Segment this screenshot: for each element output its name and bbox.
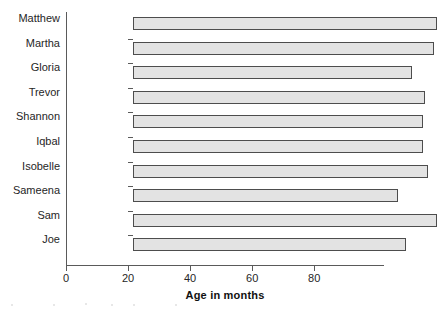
x-axis-tick: [190, 266, 191, 271]
plot-area: Matthew Martha Gloria Trevor Shannon Iqb…: [66, 12, 384, 266]
y-axis-tick: [128, 88, 133, 89]
category-label: Sameena: [0, 184, 60, 197]
category-label: Trevor: [0, 86, 60, 99]
chart-row: Shannon: [66, 110, 384, 135]
bar-sameena[interactable]: [133, 189, 398, 202]
chart-row: Martha: [66, 37, 384, 62]
chart-row: Matthew: [66, 12, 384, 37]
chart-row: Iqbal: [66, 135, 384, 160]
y-axis-tick: [128, 137, 133, 138]
y-axis-tick: [128, 39, 133, 40]
chart-row: Sameena: [66, 184, 384, 209]
category-label: Gloria: [0, 61, 60, 74]
bar-gloria[interactable]: [133, 66, 412, 79]
x-axis-title: Age in months: [66, 289, 384, 301]
x-axis-tick: [128, 266, 129, 271]
x-axis-tick: [66, 266, 67, 271]
bar-iqbal[interactable]: [133, 140, 423, 153]
y-axis-tick: [128, 112, 133, 113]
y-axis-tick: [128, 63, 133, 64]
category-label: Joe: [0, 233, 60, 246]
bar-matthew[interactable]: [133, 17, 437, 30]
category-label: Iqbal: [0, 135, 60, 148]
bar-shannon[interactable]: [133, 115, 423, 128]
chart-row: Sam: [66, 209, 384, 234]
bar-sam[interactable]: [133, 214, 437, 227]
category-label: Matthew: [0, 12, 60, 25]
category-label: Martha: [0, 37, 60, 50]
chart-row: Trevor: [66, 86, 384, 111]
category-label: Shannon: [0, 110, 60, 123]
bar-isobelle[interactable]: [133, 165, 428, 178]
x-axis-tick-label: 20: [108, 272, 148, 285]
bar-joe[interactable]: [133, 238, 406, 251]
chart-row: Gloria: [66, 61, 384, 86]
chart-row: Joe: [66, 233, 384, 258]
category-label: Isobelle: [0, 160, 60, 173]
scan-artifact: [8, 303, 248, 307]
y-axis-tick: [128, 186, 133, 187]
x-axis-tick-label: 40: [170, 272, 210, 285]
y-axis-tick: [128, 211, 133, 212]
y-axis-tick: [128, 235, 133, 236]
x-axis-tick-label: 0: [46, 272, 86, 285]
category-label: Sam: [0, 209, 60, 222]
x-axis-tick-label: 60: [232, 272, 272, 285]
chart-row: Isobelle: [66, 160, 384, 185]
x-axis-tick-label: 80: [294, 272, 334, 285]
x-axis-tick: [314, 266, 315, 271]
bar-trevor[interactable]: [133, 91, 425, 104]
y-axis-tick: [128, 162, 133, 163]
x-axis-tick: [252, 266, 253, 271]
bar-martha[interactable]: [133, 42, 434, 55]
